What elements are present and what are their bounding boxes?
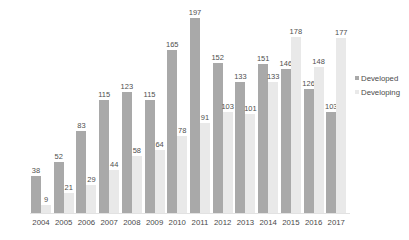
chart-legend: Developed Developing: [355, 69, 409, 99]
bar-value-label: 38: [23, 166, 49, 175]
bar-group: 11544: [98, 0, 121, 214]
bar-group: 16578: [166, 0, 189, 214]
bar-pair: 151133: [257, 0, 280, 214]
bar-pair: 8329: [75, 0, 98, 214]
bar-value-label: 165: [159, 40, 185, 49]
bar-pair: 11564: [144, 0, 167, 214]
bar-developing-2006[interactable]: [86, 185, 96, 214]
bar-developing-2009[interactable]: [155, 150, 165, 214]
legend-item-developed[interactable]: Developed: [355, 69, 409, 83]
bar-group: 103177: [325, 0, 348, 214]
bar-developed-2016[interactable]: [304, 89, 314, 214]
bar-developed-2007[interactable]: [99, 100, 109, 214]
x-axis-labels: 2004200520062007200820092010201120122013…: [30, 217, 348, 231]
bar-developing-2013[interactable]: [245, 114, 255, 214]
bar-developed-2009[interactable]: [145, 100, 155, 214]
bar-developed-2013[interactable]: [235, 82, 245, 214]
legend-swatch-developed-icon: [355, 76, 359, 80]
bar-developing-2015[interactable]: [291, 37, 301, 214]
bar-group: 152103: [212, 0, 235, 214]
legend-swatch-developing-icon: [355, 90, 359, 94]
bar-developed-2014[interactable]: [258, 64, 268, 214]
bar-developing-2005[interactable]: [64, 193, 74, 214]
bar-developing-2010[interactable]: [177, 136, 187, 214]
bar-chart: 3895221832911544123581156416578197911521…: [0, 0, 409, 240]
bar-developing-2008[interactable]: [132, 156, 142, 214]
bar-pair: 11544: [98, 0, 121, 214]
bar-pair: 5221: [53, 0, 76, 214]
bar-group: 151133: [257, 0, 280, 214]
bar-developing-2012[interactable]: [223, 112, 233, 214]
bar-pair: 389: [30, 0, 53, 214]
bar-group: 19791: [189, 0, 212, 214]
bar-developing-2014[interactable]: [268, 82, 278, 214]
legend-label-developing: Developing: [361, 86, 400, 99]
bar-group: 12358: [121, 0, 144, 214]
bar-developing-2011[interactable]: [200, 123, 210, 214]
bar-pair: 133101: [234, 0, 257, 214]
bar-developing-2007[interactable]: [109, 170, 119, 214]
bar-pair: 152103: [212, 0, 235, 214]
bar-value-label: 83: [68, 121, 94, 130]
bar-group: 146178: [280, 0, 303, 214]
bar-value-label: 133: [227, 72, 253, 81]
plot-area: 3895221832911544123581156416578197911521…: [30, 0, 348, 214]
bar-value-label: 115: [137, 90, 163, 99]
x-tick-2017: 2017: [323, 217, 349, 229]
bar-developed-2006[interactable]: [76, 131, 86, 214]
legend-item-developing[interactable]: Developing: [355, 83, 409, 97]
bar-value-label: 115: [91, 90, 117, 99]
bar-developing-2017[interactable]: [336, 38, 346, 214]
bar-group: 389: [30, 0, 53, 214]
bar-pair: 19791: [189, 0, 212, 214]
bar-value-label: 152: [205, 53, 231, 62]
bar-developed-2017[interactable]: [326, 112, 336, 214]
bar-pair: 16578: [166, 0, 189, 214]
bar-value-label: 197: [182, 8, 208, 17]
bar-value-label: 177: [328, 28, 354, 37]
bar-pair: 146178: [280, 0, 303, 214]
bar-developed-2015[interactable]: [281, 69, 291, 214]
bar-pair: 103177: [325, 0, 348, 214]
bar-group: 133101: [234, 0, 257, 214]
x-axis-baseline: [30, 213, 350, 214]
bar-group: 11564: [144, 0, 167, 214]
bar-developing-2016[interactable]: [314, 67, 324, 214]
bar-developed-2012[interactable]: [213, 63, 223, 214]
bar-group: 8329: [75, 0, 98, 214]
bar-value-label: 52: [46, 152, 72, 161]
bar-pair: 12358: [121, 0, 144, 214]
bar-group: 5221: [53, 0, 76, 214]
